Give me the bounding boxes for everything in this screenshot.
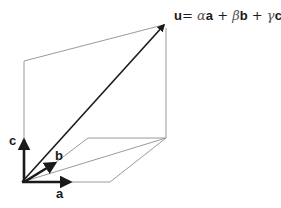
equation-b: b xyxy=(240,8,248,23)
equation-u: u xyxy=(174,8,182,23)
equation-alpha: α xyxy=(197,8,206,23)
vector-decomposition-diagram xyxy=(0,0,281,208)
label-c: c xyxy=(9,133,16,148)
label-a: a xyxy=(56,186,63,201)
vector-b-arrow xyxy=(24,163,55,182)
equation-plus: + xyxy=(252,8,263,23)
equation-equals: = xyxy=(182,8,193,23)
equation-a: a xyxy=(206,8,213,23)
equation-beta: β xyxy=(232,8,240,23)
equation-c: c xyxy=(275,8,281,23)
label-b: b xyxy=(55,148,63,163)
vector-u-arrow xyxy=(22,25,164,182)
equation: u= αa + βb + γc xyxy=(174,8,281,23)
equation-plus: + xyxy=(217,8,228,23)
equation-gamma: γ xyxy=(267,8,275,23)
